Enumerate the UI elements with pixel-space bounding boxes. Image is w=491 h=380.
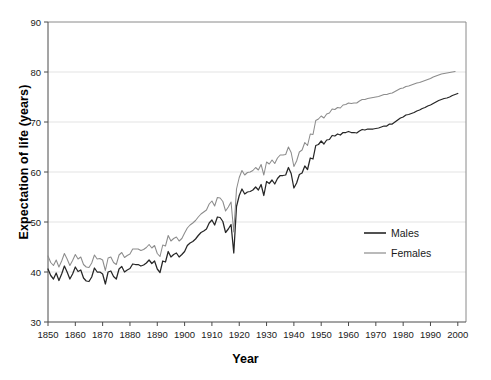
x-tick-label-1900: 1900 [174, 329, 195, 340]
x-tick-label-1950: 1950 [311, 329, 332, 340]
y-tick-group: 30405060708090 [30, 17, 48, 328]
y-tick-label-40: 40 [30, 267, 41, 278]
x-tick-label-1880: 1880 [119, 329, 140, 340]
x-tick-label-1850: 1850 [37, 329, 58, 340]
x-tick-label-1980: 1980 [393, 329, 414, 340]
x-tick-label-1960: 1960 [338, 329, 359, 340]
x-tick-label-2000: 2000 [447, 329, 468, 340]
y-tick-label-80: 80 [30, 67, 41, 78]
legend-label-females: Females [391, 247, 431, 259]
x-tick-label-1860: 1860 [65, 329, 86, 340]
chart-figure: Expectation of life (years) Year 3040506… [0, 0, 491, 380]
x-tick-label-1990: 1990 [420, 329, 441, 340]
y-tick-label-90: 90 [30, 17, 41, 28]
x-tick-label-1920: 1920 [229, 329, 250, 340]
y-tick-label-70: 70 [30, 117, 41, 128]
x-tick-label-1930: 1930 [256, 329, 277, 340]
legend-label-males: Males [391, 227, 419, 239]
x-tick-label-1910: 1910 [201, 329, 222, 340]
x-tick-label-1890: 1890 [147, 329, 168, 340]
y-tick-label-60: 60 [30, 167, 41, 178]
x-tick-group: 1850186018701880189019001910192019301940… [37, 322, 468, 340]
x-tick-label-1870: 1870 [92, 329, 113, 340]
y-tick-label-50: 50 [30, 217, 41, 228]
x-tick-label-1940: 1940 [283, 329, 304, 340]
y-tick-label-30: 30 [30, 317, 41, 328]
x-tick-label-1970: 1970 [365, 329, 386, 340]
line-chart-plot: 30405060708090 1850186018701880189019001… [0, 0, 491, 380]
